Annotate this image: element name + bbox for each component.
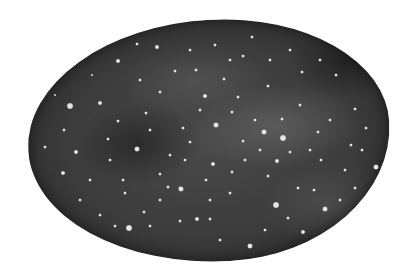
star — [159, 199, 162, 202]
star — [269, 59, 272, 62]
star — [251, 36, 254, 39]
star — [354, 108, 357, 111]
star — [184, 159, 187, 162]
star — [135, 147, 140, 152]
star — [262, 130, 267, 135]
star — [54, 94, 56, 96]
star — [74, 150, 78, 154]
star — [167, 186, 170, 189]
star — [136, 43, 139, 46]
star — [149, 225, 152, 228]
star — [267, 175, 270, 178]
star — [214, 44, 217, 47]
star — [214, 123, 219, 128]
star — [179, 220, 182, 223]
star — [259, 149, 262, 152]
star — [205, 179, 208, 182]
star — [149, 129, 152, 132]
star — [114, 225, 117, 228]
star — [63, 129, 66, 132]
star — [219, 239, 222, 242]
star — [195, 69, 198, 72]
star — [229, 59, 232, 62]
star — [182, 127, 185, 130]
star — [273, 202, 279, 208]
star — [309, 149, 312, 152]
star — [365, 127, 368, 130]
star — [244, 159, 247, 162]
star — [299, 104, 302, 107]
star — [145, 112, 148, 115]
star — [344, 169, 347, 172]
star — [189, 49, 192, 52]
star — [301, 71, 304, 74]
star — [209, 218, 212, 221]
star — [117, 120, 120, 123]
star — [98, 101, 102, 105]
star — [242, 140, 245, 143]
star — [89, 179, 92, 182]
star — [143, 211, 146, 214]
star — [297, 187, 300, 190]
star — [329, 119, 332, 122]
star — [169, 154, 172, 157]
star — [124, 192, 127, 195]
star — [91, 74, 93, 76]
star — [289, 49, 292, 52]
star — [179, 187, 182, 190]
star — [289, 151, 292, 154]
star — [287, 217, 290, 220]
star — [323, 207, 328, 212]
star — [231, 111, 234, 114]
star — [159, 173, 162, 176]
star — [44, 146, 47, 149]
star — [319, 59, 322, 62]
star — [67, 103, 73, 109]
star — [211, 162, 215, 166]
star — [231, 171, 234, 174]
star — [159, 91, 162, 94]
star — [317, 131, 320, 134]
star — [139, 79, 142, 82]
star — [223, 78, 226, 81]
star — [199, 109, 202, 112]
star — [320, 159, 323, 162]
star — [109, 159, 112, 162]
star — [155, 45, 159, 49]
star — [99, 214, 102, 217]
star — [189, 141, 192, 144]
star — [122, 179, 125, 182]
star — [280, 135, 286, 141]
star — [361, 149, 364, 152]
star — [79, 199, 82, 202]
star — [313, 189, 316, 192]
star — [61, 171, 65, 175]
star — [195, 217, 199, 221]
star — [174, 70, 177, 73]
star — [242, 55, 245, 58]
star — [301, 230, 305, 234]
star — [126, 225, 132, 231]
star — [275, 159, 279, 163]
star — [281, 118, 284, 121]
star — [350, 144, 353, 147]
star — [267, 85, 270, 88]
star — [248, 244, 253, 249]
star — [209, 199, 212, 202]
star — [116, 59, 120, 63]
star — [237, 96, 240, 99]
star — [107, 138, 110, 141]
star — [335, 74, 338, 77]
star — [203, 94, 207, 98]
star — [339, 199, 342, 202]
star — [264, 229, 267, 232]
starry-night-illustration — [0, 0, 415, 280]
star — [229, 192, 232, 195]
star — [354, 187, 357, 190]
night-sky-blob — [22, 11, 396, 272]
star — [254, 119, 257, 122]
star — [374, 165, 379, 170]
